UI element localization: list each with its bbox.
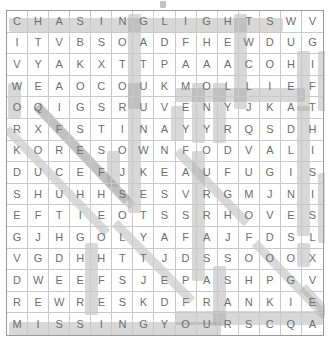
grid-cell[interactable]: D xyxy=(154,33,175,55)
grid-cell[interactable]: L xyxy=(218,76,239,98)
grid-cell[interactable]: V xyxy=(7,249,28,271)
grid-cell[interactable]: T xyxy=(239,11,260,33)
grid-cell[interactable]: G xyxy=(70,97,91,119)
grid-cell[interactable]: F xyxy=(176,33,197,55)
grid-cell[interactable]: U xyxy=(49,184,70,206)
grid-cell[interactable]: I xyxy=(91,11,112,33)
grid-cell[interactable]: N xyxy=(112,313,133,335)
grid-cell[interactable]: U xyxy=(28,162,49,184)
grid-cell[interactable]: D xyxy=(7,162,28,184)
grid-cell[interactable]: O xyxy=(197,76,218,98)
grid-cell[interactable]: S xyxy=(70,313,91,335)
grid-cell[interactable]: T xyxy=(133,249,154,271)
grid-cell[interactable]: I xyxy=(70,205,91,227)
grid-cell[interactable]: S xyxy=(281,227,302,249)
grid-cell[interactable]: A xyxy=(49,11,70,33)
grid-cell[interactable]: E xyxy=(154,270,175,292)
grid-cell[interactable]: L xyxy=(154,11,175,33)
grid-cell[interactable]: J xyxy=(133,270,154,292)
grid-cell[interactable]: D xyxy=(176,249,197,271)
grid-cell[interactable]: W xyxy=(49,292,70,314)
grid-cell[interactable]: S xyxy=(91,141,112,163)
grid-cell[interactable]: Y xyxy=(154,313,175,335)
grid-cell[interactable]: R xyxy=(197,292,218,314)
grid-cell[interactable]: F xyxy=(91,162,112,184)
grid-cell[interactable]: H xyxy=(218,205,239,227)
grid-cell[interactable]: S xyxy=(176,205,197,227)
grid-cell[interactable]: E xyxy=(176,97,197,119)
grid-cell[interactable]: U xyxy=(197,162,218,184)
grid-cell[interactable]: O xyxy=(112,205,133,227)
grid-cell[interactable]: V xyxy=(49,33,70,55)
grid-cell[interactable]: E xyxy=(28,292,49,314)
grid-cell[interactable]: J xyxy=(28,227,49,249)
grid-cell[interactable]: S xyxy=(218,270,239,292)
grid-cell[interactable]: F xyxy=(91,270,112,292)
grid-cell[interactable]: A xyxy=(176,54,197,76)
grid-cell[interactable]: H xyxy=(28,184,49,206)
grid-cell[interactable]: O xyxy=(112,33,133,55)
grid-cell[interactable]: Y xyxy=(218,97,239,119)
grid-cell[interactable]: T xyxy=(133,54,154,76)
grid-cell[interactable]: S xyxy=(218,249,239,271)
grid-cell[interactable]: B xyxy=(70,33,91,55)
grid-cell[interactable]: R xyxy=(197,205,218,227)
grid-cell[interactable]: S xyxy=(260,119,281,141)
grid-cell[interactable]: E xyxy=(28,76,49,98)
grid-cell[interactable]: G xyxy=(133,11,154,33)
grid-cell[interactable]: A xyxy=(281,97,302,119)
grid-cell[interactable]: E xyxy=(91,205,112,227)
grid-cell[interactable]: O xyxy=(281,249,302,271)
grid-cell[interactable]: A xyxy=(218,54,239,76)
grid-cell[interactable]: O xyxy=(112,76,133,98)
grid-cell[interactable]: H xyxy=(197,33,218,55)
grid-cell[interactable]: A xyxy=(49,54,70,76)
grid-cell[interactable]: H xyxy=(91,184,112,206)
grid-cell[interactable]: E xyxy=(49,270,70,292)
grid-cell[interactable]: Y xyxy=(197,119,218,141)
grid-cell[interactable]: F xyxy=(176,292,197,314)
grid-cell[interactable]: M xyxy=(239,184,260,206)
grid-cell[interactable]: O xyxy=(28,141,49,163)
grid-cell[interactable]: V xyxy=(302,270,323,292)
grid-cell[interactable]: I xyxy=(176,11,197,33)
grid-cell[interactable]: E xyxy=(70,162,91,184)
grid-cell[interactable]: T xyxy=(112,249,133,271)
grid-cell[interactable]: C xyxy=(260,313,281,335)
grid-cell[interactable]: S xyxy=(197,249,218,271)
grid-cell[interactable]: O xyxy=(70,76,91,98)
grid-cell[interactable]: E xyxy=(70,141,91,163)
grid-cell[interactable]: U xyxy=(133,97,154,119)
grid-cell[interactable]: N xyxy=(133,119,154,141)
grid-cell[interactable]: T xyxy=(302,97,323,119)
grid-cell[interactable]: G xyxy=(7,227,28,249)
grid-cell[interactable]: S xyxy=(302,162,323,184)
grid-cell[interactable]: H xyxy=(281,54,302,76)
grid-cell[interactable]: W xyxy=(7,76,28,98)
grid-cell[interactable]: D xyxy=(7,270,28,292)
grid-cell[interactable]: K xyxy=(260,97,281,119)
grid-cell[interactable]: X xyxy=(91,54,112,76)
grid-cell[interactable]: S xyxy=(70,119,91,141)
grid-cell[interactable]: N xyxy=(239,292,260,314)
grid-cell[interactable]: H xyxy=(49,227,70,249)
grid-cell[interactable]: V xyxy=(302,11,323,33)
grid-cell[interactable]: A xyxy=(260,141,281,163)
grid-cell[interactable]: I xyxy=(260,76,281,98)
grid-cell[interactable]: I xyxy=(112,119,133,141)
grid-cell[interactable]: R xyxy=(49,141,70,163)
grid-cell[interactable]: R xyxy=(218,313,239,335)
grid-cell[interactable]: F xyxy=(176,227,197,249)
grid-cell[interactable]: I xyxy=(302,54,323,76)
grid-cell[interactable]: C xyxy=(91,76,112,98)
grid-cell[interactable]: C xyxy=(239,54,260,76)
grid-cell[interactable]: S xyxy=(112,184,133,206)
grid-cell[interactable]: G xyxy=(28,249,49,271)
grid-cell[interactable]: J xyxy=(239,97,260,119)
grid-cell[interactable]: S xyxy=(112,270,133,292)
grid-cell[interactable]: T xyxy=(49,205,70,227)
grid-cell[interactable]: S xyxy=(239,313,260,335)
grid-cell[interactable]: E xyxy=(154,162,175,184)
grid-cell[interactable]: Q xyxy=(28,97,49,119)
grid-cell[interactable]: A xyxy=(197,270,218,292)
